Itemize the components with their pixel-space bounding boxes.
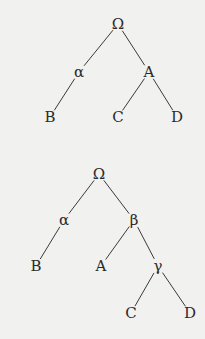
edge-gamma-D <box>163 273 186 307</box>
tree-1: ΩαABCD <box>44 15 183 126</box>
tree-diagram-canvas: ΩαABCDΩαβBAγCD <box>0 0 205 339</box>
edge-beta-A <box>106 227 130 260</box>
node-B: B <box>30 257 41 275</box>
node-omega: Ω <box>93 165 105 183</box>
tree-diagram-page: ΩαABCDΩαβBAγCD <box>0 0 205 339</box>
node-alpha: α <box>74 63 84 81</box>
edge-beta-gamma <box>138 227 155 259</box>
node-D: D <box>184 304 196 322</box>
edge-omega-A <box>122 31 144 66</box>
node-C: C <box>125 304 136 322</box>
edge-gamma-C <box>135 273 154 306</box>
edge-alpha-B <box>54 79 74 111</box>
edge-A-C <box>123 79 145 111</box>
node-beta: β <box>130 211 139 229</box>
node-A: A <box>143 63 155 81</box>
node-alpha: α <box>59 211 69 229</box>
node-gamma: γ <box>154 257 163 275</box>
node-omega: Ω <box>112 15 124 33</box>
node-A: A <box>95 257 107 275</box>
edge-omega-alpha <box>69 180 94 213</box>
node-B: B <box>44 108 55 126</box>
edge-A-D <box>153 79 173 110</box>
node-C: C <box>112 108 123 126</box>
edge-alpha-B <box>40 227 60 259</box>
edge-omega-alpha <box>84 30 113 66</box>
edge-omega-beta <box>104 180 129 213</box>
tree-2: ΩαβBAγCD <box>30 165 196 322</box>
node-D: D <box>171 108 183 126</box>
